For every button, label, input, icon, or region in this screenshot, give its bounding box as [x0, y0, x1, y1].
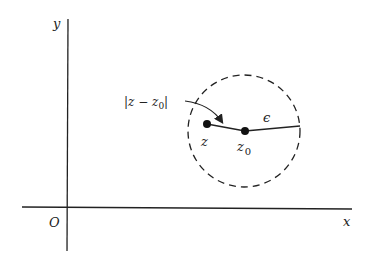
y-axis: [67, 19, 68, 251]
y-axis-label: y: [52, 16, 61, 31]
x-axis: [22, 207, 352, 209]
point-z-label: z: [200, 134, 208, 149]
point-z: [203, 120, 211, 128]
origin-label: O: [49, 215, 60, 230]
radius-epsilon-label: ϵ: [263, 110, 271, 125]
z0-subscript: 0: [245, 146, 251, 157]
point-z0-label: z0: [236, 139, 251, 157]
point-z0: [241, 127, 249, 135]
distance-label: |z − z0|: [124, 95, 168, 111]
distance-segment: [207, 124, 245, 131]
x-axis-label: x: [343, 214, 351, 229]
pointer-arrow: [185, 101, 222, 122]
neighborhood-diagram: y x O z z0 ϵ |z − z0|: [0, 0, 376, 263]
radius-segment: [245, 126, 300, 131]
